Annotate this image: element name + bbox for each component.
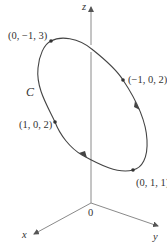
x-axis-label: x: [21, 229, 27, 240]
curve-c: [38, 38, 147, 171]
direction-arrow-icon: [134, 101, 140, 110]
curve-label: C: [26, 85, 35, 99]
point-label: (0, −1, 3): [8, 30, 48, 42]
y-axis-label: y: [152, 231, 158, 242]
point-dot: [131, 168, 135, 172]
y-axis: [91, 203, 158, 226]
z-axis-label: z: [81, 1, 86, 12]
diagram-canvas: z x y 0 (0, −1, 3) (−1, 0, 2) (1, 0, 2) …: [0, 0, 167, 252]
point-label: (−1, 0, 2): [128, 74, 167, 86]
point-dot: [49, 39, 53, 43]
point-dot: [53, 120, 57, 124]
point-label: (0, 1, 1): [136, 177, 167, 189]
x-axis: [34, 203, 91, 234]
origin-label: 0: [88, 207, 93, 218]
point-label: (1, 0, 2): [19, 119, 53, 131]
point-dot: [121, 78, 125, 82]
